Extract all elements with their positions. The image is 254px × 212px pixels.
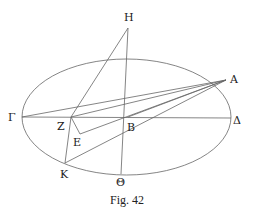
segment-K-A	[65, 80, 226, 163]
geometry-figure: Η Α Γ Δ Ζ Β Ε Κ Θ Fig. 42	[0, 0, 254, 212]
segment-H-Z	[71, 28, 128, 117]
segment-Z-A	[71, 80, 226, 117]
segment-Z-K	[65, 117, 71, 163]
label-H: Η	[124, 11, 134, 24]
label-Gamma: Γ	[8, 111, 16, 124]
figure-caption: Fig. 42	[110, 193, 144, 207]
segment-B-A	[128, 80, 226, 117]
label-K: Κ	[60, 168, 69, 181]
segment-Z-E	[71, 117, 80, 134]
label-Z: Ζ	[57, 120, 65, 133]
label-A: Α	[229, 73, 239, 86]
label-Delta: Δ	[233, 114, 241, 127]
label-Theta: Θ	[116, 176, 125, 189]
label-E: Ε	[73, 136, 81, 149]
segment-H-Theta	[121, 28, 128, 174]
label-B: Β	[127, 121, 135, 134]
